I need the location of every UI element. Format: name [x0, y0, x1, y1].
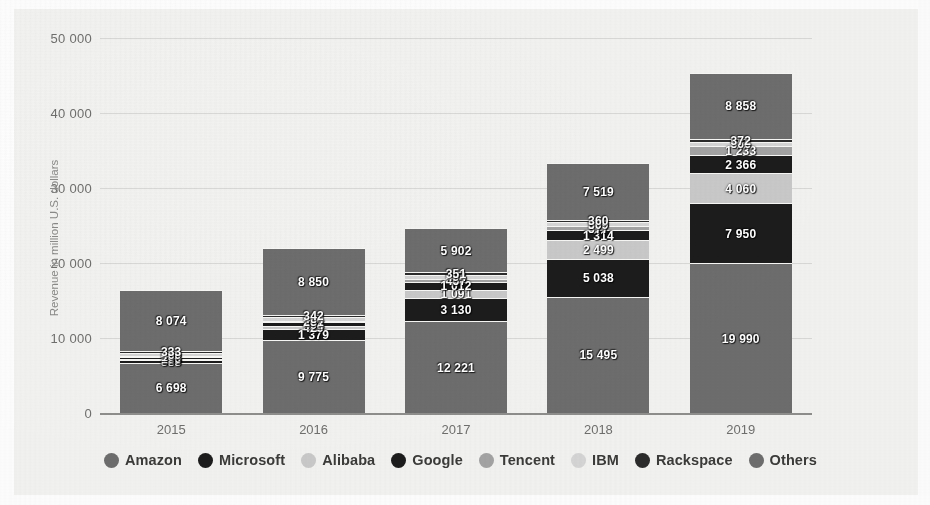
bar-segment-label: 372 — [730, 135, 751, 147]
chart-screenshot: 6 6983831551961044603338 0749 7751 37942… — [0, 0, 930, 505]
legend-swatch-icon — [104, 453, 119, 468]
bar-segment-label: 351 — [446, 268, 467, 280]
y-tick-label: 0 — [14, 406, 92, 421]
bar-segment-label: 2 499 — [583, 244, 614, 256]
bar-segment-label: 8 858 — [725, 100, 756, 112]
legend-item[interactable]: Rackspace — [635, 452, 733, 468]
page-margin-right — [918, 0, 930, 505]
legend-item[interactable]: Microsoft — [198, 452, 285, 468]
bar-segment-label: 360 — [588, 215, 609, 227]
legend-swatch-icon — [479, 453, 494, 468]
legend-item[interactable]: Others — [749, 452, 817, 468]
bar-segment-label: 5 902 — [440, 245, 471, 257]
legend-item[interactable]: Google — [391, 452, 463, 468]
legend-item-label: Others — [770, 452, 817, 468]
bar-segment-label: 7 519 — [583, 186, 614, 198]
legend-item-label: Google — [412, 452, 463, 468]
legend-item-label: Rackspace — [656, 452, 733, 468]
page-margin-left — [0, 0, 14, 505]
legend-swatch-icon — [391, 453, 406, 468]
legend-item[interactable]: IBM — [571, 452, 619, 468]
legend: AmazonMicrosoftAlibabaGoogleTencentIBMRa… — [0, 452, 930, 468]
y-axis-label: Revenue in million U.S. dollars — [48, 88, 60, 388]
x-tick-label: 2019 — [726, 422, 755, 437]
legend-item[interactable]: Alibaba — [301, 452, 375, 468]
bar-segment-label: 12 221 — [437, 362, 475, 374]
x-tick-label: 2018 — [584, 422, 613, 437]
y-axis-label-wrap: Revenue in million U.S. dollars — [22, 60, 52, 380]
x-tick-label: 2015 — [157, 422, 186, 437]
legend-item-label: IBM — [592, 452, 619, 468]
x-tick-label: 2017 — [442, 422, 471, 437]
bar-segment-label: 9 775 — [298, 371, 329, 383]
legend-swatch-icon — [571, 453, 586, 468]
legend-item[interactable]: Tencent — [479, 452, 555, 468]
bar-segment-label: 333 — [161, 346, 182, 358]
legend-item-label: Alibaba — [322, 452, 375, 468]
page-margin-top — [0, 0, 930, 9]
bar-segment-label: 3 130 — [440, 304, 471, 316]
legend-swatch-icon — [635, 453, 650, 468]
legend-item-label: Amazon — [125, 452, 182, 468]
legend-item-label: Tencent — [500, 452, 555, 468]
legend-item-label: Microsoft — [219, 452, 285, 468]
bar-segment-label: 6 698 — [156, 382, 187, 394]
bar-segment-label: 15 495 — [579, 349, 617, 361]
y-tick-label: 50 000 — [14, 31, 92, 46]
legend-swatch-icon — [301, 453, 316, 468]
bar-segment-label: 19 990 — [722, 333, 760, 345]
bar-segment-label: 5 038 — [583, 272, 614, 284]
bar-segment-label: 4 060 — [725, 183, 756, 195]
x-tick-label: 2016 — [299, 422, 328, 437]
bar-segment-label: 2 366 — [725, 159, 756, 171]
legend-swatch-icon — [749, 453, 764, 468]
bar-segment-label: 342 — [303, 310, 324, 322]
bar-segment-label: 8 074 — [156, 315, 187, 327]
page-margin-bottom — [0, 495, 930, 505]
legend-swatch-icon — [198, 453, 213, 468]
bar-segment-label: 7 950 — [725, 228, 756, 240]
legend-item[interactable]: Amazon — [104, 452, 182, 468]
bar-segment-label: 8 850 — [298, 276, 329, 288]
